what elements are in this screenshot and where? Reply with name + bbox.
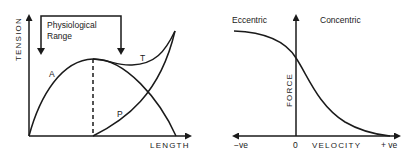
length-axis-label: LENGTH bbox=[150, 141, 190, 150]
passive-curve-label: P bbox=[117, 109, 123, 119]
arrow-down-icon bbox=[37, 48, 45, 55]
force-velocity-diagram: Eccentric Concentric FORCE −ve 0 VELOCIT… bbox=[232, 15, 399, 150]
physiological-range-label-line2: Range bbox=[47, 31, 72, 41]
force-velocity-curve bbox=[234, 31, 390, 136]
concentric-label: Concentric bbox=[320, 15, 361, 25]
positive-velocity-label: + ve bbox=[381, 140, 398, 150]
passive-tension-curve bbox=[93, 31, 175, 136]
arrow-down-icon bbox=[117, 48, 125, 55]
eccentric-label: Eccentric bbox=[232, 15, 268, 25]
zero-velocity-label: 0 bbox=[293, 140, 298, 150]
negative-velocity-label: −ve bbox=[234, 140, 248, 150]
velocity-axis-label: VELOCITY bbox=[312, 141, 361, 150]
diagram-canvas: TENSION LENGTH Physiological Range A T P… bbox=[0, 0, 412, 154]
total-curve-label: T bbox=[140, 53, 145, 63]
force-axis-label: FORCE bbox=[285, 73, 294, 107]
length-tension-diagram: TENSION LENGTH Physiological Range A T P bbox=[14, 16, 190, 150]
tension-axis-label: TENSION bbox=[14, 17, 23, 61]
active-curve-label: A bbox=[49, 69, 55, 79]
physiological-range-label-line1: Physiological bbox=[47, 20, 97, 30]
